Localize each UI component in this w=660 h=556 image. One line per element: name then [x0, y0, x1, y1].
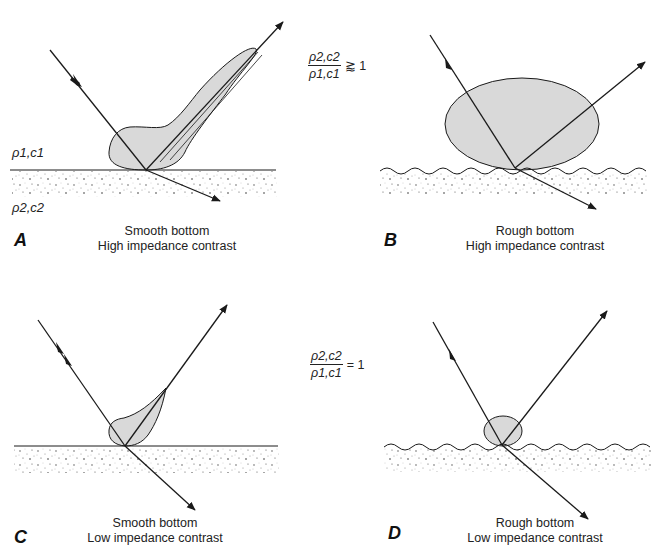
panel-d-diagram — [384, 311, 652, 519]
ratio-numerator: ρ2,c2 — [308, 50, 341, 66]
scattering-diagram — [0, 0, 660, 556]
incident-ray-d — [433, 322, 502, 445]
sediment-a — [12, 171, 277, 197]
caption-b: Rough bottom High impedance contrast — [450, 224, 620, 254]
caption-line1: Rough bottom — [450, 224, 620, 239]
caption-c: Smooth bottom Low impedance contrast — [70, 516, 240, 546]
panel-letter-d: D — [388, 523, 401, 544]
panel-c-diagram — [14, 305, 279, 510]
impedance-ratio-equal: ρ2,c2 ρ1,c1 = 1 — [310, 349, 365, 380]
ratio-denominator: ρ1,c1 — [310, 365, 343, 380]
caption-line2: High impedance contrast — [450, 239, 620, 254]
caption-line2: Low impedance contrast — [450, 531, 620, 546]
ratio-relation: ⪆ 1 — [345, 58, 366, 73]
incident-ray-c — [38, 320, 125, 446]
caption-a: Smooth bottom High impedance contrast — [82, 224, 252, 254]
scatter-lobe-c — [109, 388, 166, 446]
panel-a-diagram — [10, 22, 283, 201]
reflected-ray-a — [146, 22, 283, 170]
impedance-ratio-high: ρ2,c2 ρ1,c1 ⪆ 1 — [308, 50, 366, 81]
caption-line1: Smooth bottom — [82, 224, 252, 239]
ratio-numerator: ρ2,c2 — [310, 349, 343, 365]
panel-letter-a: A — [14, 230, 27, 251]
reflected-ray-d — [502, 311, 607, 445]
scatter-lobe-b — [445, 78, 599, 170]
upper-medium-label: ρ1,c1 — [12, 145, 44, 160]
sediment-b — [380, 172, 648, 196]
caption-d: Rough bottom Low impedance contrast — [450, 516, 620, 546]
caption-line2: High impedance contrast — [82, 239, 252, 254]
ratio-denominator: ρ1,c1 — [308, 66, 341, 81]
incident-ray-a — [50, 50, 146, 170]
sediment-c — [14, 447, 279, 473]
panel-letter-c: C — [14, 527, 27, 548]
panel-b-diagram — [380, 35, 648, 209]
caption-line2: Low impedance contrast — [70, 531, 240, 546]
ratio-relation: = 1 — [347, 358, 365, 372]
reflected-ray-c — [125, 305, 227, 446]
lower-medium-label: ρ2,c2 — [12, 200, 44, 215]
scatter-lobe-d — [484, 416, 522, 446]
sediment-d — [384, 448, 652, 472]
caption-line1: Smooth bottom — [70, 516, 240, 531]
caption-line1: Rough bottom — [450, 516, 620, 531]
panel-letter-b: B — [384, 230, 397, 251]
